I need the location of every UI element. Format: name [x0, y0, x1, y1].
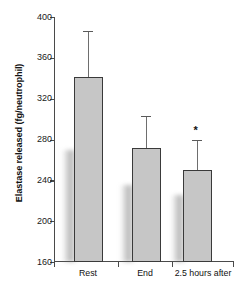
x-category-label-after: 2.5 hours after: [172, 269, 234, 278]
x-tick-start: [54, 262, 55, 267]
significance-asterisk: *: [194, 125, 198, 136]
y-tick-label-240: 240: [37, 176, 52, 185]
bar-after: [183, 170, 212, 261]
bar-chart: Elastase released (fg/neutrophil) 400 36…: [0, 0, 238, 288]
bar-end: [132, 148, 161, 262]
y-axis-line: [54, 17, 55, 262]
bar-rest: [74, 77, 103, 262]
y-tick-label-160: 160: [37, 258, 52, 267]
error-bar-stem-after: [197, 140, 198, 171]
y-axis-title: Elastase released (fg/neutrophil): [14, 18, 24, 248]
error-bar-stem-rest: [88, 31, 89, 78]
x-tick-2: [172, 262, 173, 267]
x-tick-end: [233, 262, 234, 267]
y-tick-label-360: 360: [37, 53, 52, 62]
y-tick-label-200: 200: [37, 217, 52, 226]
error-bar-stem-end: [146, 116, 147, 148]
x-category-label-end: End: [118, 269, 172, 278]
error-bar-cap-after: [192, 140, 202, 141]
x-tick-1: [118, 262, 119, 267]
y-tick-label-280: 280: [37, 135, 52, 144]
error-bar-cap-rest: [83, 31, 93, 32]
error-bar-cap-end: [141, 116, 151, 117]
y-tick-label-320: 320: [37, 94, 52, 103]
x-category-label-rest: Rest: [58, 269, 118, 278]
y-tick-label-400: 400: [37, 13, 52, 22]
